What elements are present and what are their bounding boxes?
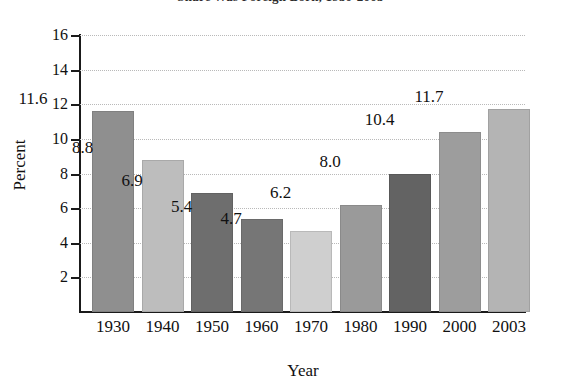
x-axis-title: Year (80, 361, 526, 381)
bar-value-label: 10.4 (352, 111, 408, 128)
bar-value-label: 11.7 (401, 88, 457, 105)
bar-value-label: 4.7 (203, 210, 259, 227)
bar-group[interactable] (389, 35, 431, 312)
y-axis-title: Percent (10, 117, 30, 213)
chart-screenshot: Share Was Foreign Born, 1930-2003 Percen… (0, 0, 561, 390)
chart-title: Share Was Foreign Born, 1930-2003 (0, 0, 561, 5)
bar-value-label: 11.6 (5, 90, 61, 107)
y-axis-tick-mark (71, 70, 80, 72)
y-axis-tick-label: 8 (38, 166, 68, 182)
bar-group[interactable] (340, 35, 382, 312)
y-axis-tick-mark (71, 277, 80, 279)
y-axis-tick-mark (71, 243, 80, 245)
bar-group[interactable] (488, 35, 530, 312)
bar-group[interactable] (191, 35, 233, 312)
x-axis-tick-label: 2003 (478, 318, 540, 336)
bar-value-label: 6.9 (104, 172, 160, 189)
bar-group[interactable] (241, 35, 283, 312)
bar-group[interactable] (439, 35, 481, 312)
bar-value-label: 5.4 (154, 198, 210, 215)
bar[interactable] (290, 231, 332, 312)
y-axis-tick-label: 4 (38, 235, 68, 251)
y-axis-tick-label: 16 (38, 27, 68, 43)
bar-group[interactable] (290, 35, 332, 312)
bar[interactable] (439, 132, 481, 312)
bar-value-label: 8.0 (302, 153, 358, 170)
y-axis-tick-mark (71, 174, 80, 176)
y-axis-tick-mark (71, 208, 80, 210)
bar-value-label: 8.8 (55, 139, 111, 156)
bar[interactable] (340, 205, 382, 312)
y-axis-tick-label: 6 (38, 200, 68, 216)
y-axis-tick-mark (71, 104, 80, 106)
y-axis-tick-label: 14 (38, 62, 68, 78)
bar[interactable] (488, 109, 530, 312)
y-axis-tick-labels: 246810121416 (32, 0, 68, 390)
bar[interactable] (389, 174, 431, 313)
bar[interactable] (241, 219, 283, 312)
bar-value-label: 6.2 (253, 184, 309, 201)
y-axis-tick-mark (71, 35, 80, 37)
y-axis-tick-label: 2 (38, 269, 68, 285)
